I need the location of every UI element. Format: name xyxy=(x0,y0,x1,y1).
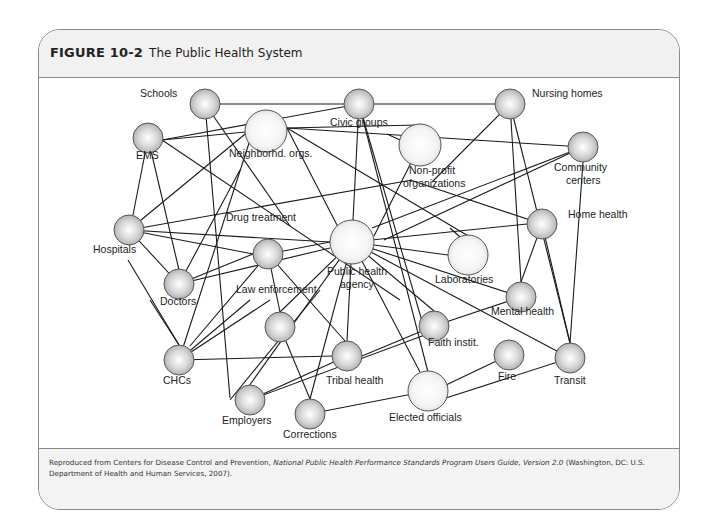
label-drug: Drug treatment xyxy=(226,211,296,224)
label-neighborhd: Neighborhd. orgs. xyxy=(229,147,312,160)
label-hospitals: Hospitals xyxy=(93,243,136,256)
node-tribal xyxy=(332,341,362,371)
label-nonprofit_2: organizations xyxy=(403,177,465,190)
edge-line xyxy=(510,104,521,282)
node-transit xyxy=(555,343,585,373)
label-homehealth: Home health xyxy=(568,208,628,221)
label-corrections: Corrections xyxy=(283,428,337,441)
node-employers xyxy=(235,385,265,415)
node-elected xyxy=(408,371,448,411)
label-law: Law enforcement xyxy=(236,283,317,296)
label-faith: Faith instit. xyxy=(428,336,479,349)
label-civic: Civic groups xyxy=(330,116,388,129)
label-chcs: CHCs xyxy=(163,374,191,387)
edge-line xyxy=(570,162,583,343)
label-elected: Elected officials xyxy=(389,411,462,424)
label-ems: EMS xyxy=(136,149,159,162)
label-labs: Laboratories xyxy=(435,273,493,286)
label-nursing: Nursing homes xyxy=(532,87,603,100)
edge-line xyxy=(179,300,270,360)
edge-line xyxy=(230,290,320,400)
label-transit: Transit xyxy=(554,374,586,387)
node-corrections xyxy=(295,399,325,429)
label-schools: Schools xyxy=(140,87,177,100)
node-pha xyxy=(330,220,374,264)
label-employers: Employers xyxy=(222,414,272,427)
label-community_1: Community xyxy=(554,161,607,174)
label-pha_2: agency xyxy=(340,278,374,291)
network-diagram xyxy=(0,0,719,525)
label-community_2: centers xyxy=(566,174,600,187)
node-nonprofit xyxy=(399,124,441,166)
node-schools xyxy=(190,89,220,119)
node-homehealth xyxy=(527,209,557,239)
node-civic xyxy=(344,89,374,119)
node-nursing xyxy=(495,89,525,119)
node-drug xyxy=(253,239,283,269)
edge-line xyxy=(190,254,268,346)
node-chcs xyxy=(164,345,194,375)
label-nonprofit_1: Non-profit xyxy=(409,164,455,177)
node-fire xyxy=(494,340,524,370)
label-fire: Fire xyxy=(498,370,516,383)
edge-line xyxy=(542,224,570,343)
edge-line xyxy=(179,356,333,360)
edge-line xyxy=(450,228,460,237)
edge-line xyxy=(179,140,250,360)
node-hospitals xyxy=(114,215,144,245)
node-neighborhd xyxy=(245,110,287,152)
label-pha_1: Public health xyxy=(327,265,387,278)
label-mental: Mental health xyxy=(491,305,554,318)
node-law xyxy=(265,312,295,342)
edge-line xyxy=(205,104,230,398)
node-community xyxy=(568,132,598,162)
label-tribal: Tribal health xyxy=(326,374,383,387)
label-doctors: Doctors xyxy=(160,295,196,308)
node-labs xyxy=(448,235,488,275)
